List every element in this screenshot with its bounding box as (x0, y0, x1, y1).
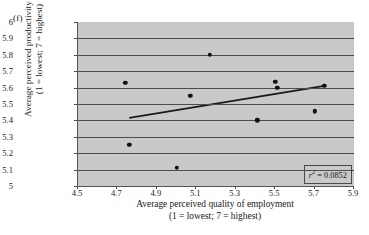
gridline (78, 137, 354, 138)
gridline (78, 120, 354, 121)
x-tick-label: 5.5 (259, 189, 289, 198)
gridline (78, 55, 354, 56)
gridline (78, 88, 354, 89)
y-tick-label: 5.2 (0, 149, 13, 158)
x-axis-title-line1: Average perceived quality of employment (77, 198, 353, 210)
y-tick-label: 5.3 (0, 132, 13, 141)
y-tick-mark (74, 104, 77, 105)
y-tick-mark (74, 38, 77, 39)
x-tick-label: 5.1 (180, 189, 210, 198)
x-tick-label: 4.5 (62, 189, 92, 198)
gridline (78, 71, 354, 72)
y-tick-label: 5.9 (0, 34, 13, 43)
y-tick-mark (74, 55, 77, 56)
y-tick-label: 5.8 (0, 50, 13, 59)
y-tick-mark (74, 153, 77, 154)
r-squared-annotation: r2 = 0.0852 (304, 165, 352, 184)
gridline (78, 170, 354, 171)
y-axis-title: Average perceived productivity level (1 … (23, 0, 53, 131)
y-tick-mark (74, 137, 77, 138)
gridline (78, 38, 354, 39)
x-tick-label: 5.9 (338, 189, 368, 198)
y-axis-title-line2: (1 = lowest; 7 = highest) (34, 0, 45, 131)
x-tick-label: 4.7 (101, 189, 131, 198)
figure-panel: (f) Average perceived productivity level… (0, 0, 369, 235)
y-tick-label: 5.7 (0, 67, 13, 76)
x-tick-label: 4.9 (141, 189, 171, 198)
y-tick-label: 5.4 (0, 116, 13, 125)
y-tick-label: 5.1 (0, 165, 13, 174)
y-axis-title-line1: Average perceived productivity level (23, 0, 34, 131)
panel-letter: (f) (13, 13, 23, 23)
x-axis-title-line2: (1 = lowest; 7 = highest) (77, 210, 353, 222)
gridline (78, 104, 354, 105)
x-tick-label: 5.7 (299, 189, 329, 198)
y-tick-mark (74, 170, 77, 171)
x-tick-label: 5.3 (220, 189, 250, 198)
y-tick-mark (74, 22, 77, 23)
y-tick-mark (74, 71, 77, 72)
x-axis-title: Average perceived quality of employment … (77, 198, 353, 222)
y-tick-mark (74, 88, 77, 89)
gridline (78, 153, 354, 154)
plot-area: r2 = 0.0852 (77, 22, 354, 187)
y-tick-label: 5 (0, 182, 13, 191)
y-tick-label: 6 (0, 18, 13, 27)
y-tick-label: 5.5 (0, 100, 13, 109)
r-value: = 0.0852 (315, 171, 347, 180)
y-tick-mark (74, 120, 77, 121)
y-tick-label: 5.6 (0, 83, 13, 92)
